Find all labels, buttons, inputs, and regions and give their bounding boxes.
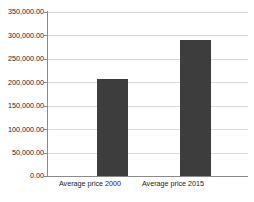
bar-chart-figure: 0.0050,000.00100,000.00150,000.00200,000… [0, 0, 254, 202]
y-axis-tick-label-text: 350,000.00 [8, 8, 44, 15]
y-axis-tick-mark [44, 129, 48, 130]
y-axis-tick-mark [44, 12, 48, 13]
y-axis-tick-label-text: 50,000.00 [12, 149, 44, 156]
y-axis-tick-label-text: 200,000.00 [8, 79, 44, 86]
gridline [48, 35, 248, 36]
y-axis-tick-mark [44, 82, 48, 83]
y-axis-tick-label-text: 250,000.00 [8, 55, 44, 62]
y-axis-tick-mark [44, 176, 48, 177]
y-axis-tick-label-text: 100,000.00 [8, 126, 44, 133]
x-axis-category-label-0: Average price 2000 [57, 179, 123, 188]
gridline [48, 12, 248, 13]
gridline [48, 59, 248, 60]
gridline [48, 106, 248, 107]
y-axis-tick-mark [44, 106, 48, 107]
gridline [48, 129, 248, 130]
plot-area [48, 12, 248, 176]
bar-1 [180, 40, 211, 176]
x-axis-category-label-1: Average price 2015 [140, 179, 206, 188]
y-axis-tick-label-text: 150,000.00 [8, 102, 44, 109]
gridline [48, 153, 248, 154]
y-axis-tick-label-text: 0.00 [30, 172, 44, 179]
gridline [48, 82, 248, 83]
bar-0 [97, 79, 128, 176]
y-axis-tick-mark [44, 59, 48, 60]
y-axis-tick-label-text: 300,000.00 [8, 32, 44, 39]
y-axis-tick-mark [44, 35, 48, 36]
y-axis-tick-mark [44, 153, 48, 154]
x-axis-line [47, 176, 248, 177]
